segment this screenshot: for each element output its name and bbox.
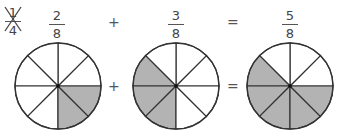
circle-two-eighths [15,43,101,129]
center-dot [288,84,292,88]
fraction-circles [0,0,344,140]
circle-five-eighths [247,43,333,129]
circle-three-eighths [133,43,219,129]
center-dot [56,84,60,88]
center-dot [174,84,178,88]
